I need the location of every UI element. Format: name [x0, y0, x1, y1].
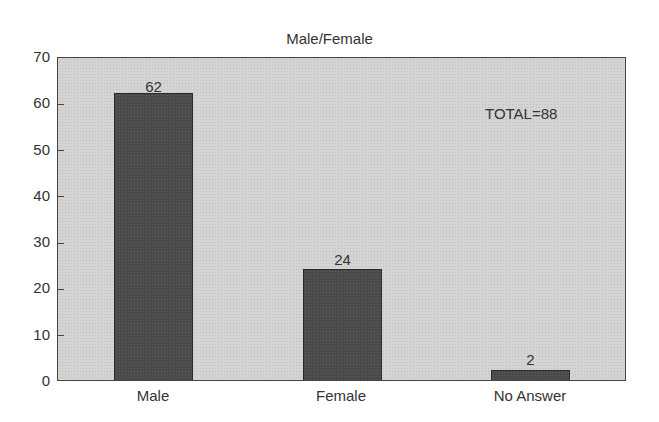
- y-tick-label: 30: [10, 233, 50, 250]
- y-tick-label: 20: [10, 279, 50, 296]
- bar-female: [303, 269, 382, 380]
- bar-value-label-no-answer: 2: [491, 351, 570, 368]
- x-tick-label: No Answer: [450, 387, 610, 404]
- y-tick-label: 70: [10, 48, 50, 65]
- y-tick-mark: [58, 150, 64, 151]
- y-tick-mark: [58, 289, 64, 290]
- plot-area: 62 24 2 TOTAL=88: [57, 57, 626, 381]
- y-tick-label: 40: [10, 187, 50, 204]
- y-tick-mark: [58, 104, 64, 105]
- chart-title: Male/Female: [0, 30, 659, 47]
- total-annotation: TOTAL=88: [485, 105, 557, 122]
- y-tick-label: 10: [10, 326, 50, 343]
- bar-value-label-female: 24: [303, 251, 382, 268]
- y-tick-label: 60: [10, 94, 50, 111]
- x-tick-label: Male: [73, 387, 233, 404]
- bar-male: [114, 93, 193, 380]
- y-tick-mark: [58, 196, 64, 197]
- bar-value-label-male: 62: [114, 78, 193, 95]
- y-tick-label: 0: [10, 372, 50, 389]
- x-tick-label: Female: [261, 387, 421, 404]
- y-tick-mark: [58, 335, 64, 336]
- y-tick-label: 50: [10, 141, 50, 158]
- y-tick-mark: [58, 243, 64, 244]
- bar-no-answer: [491, 370, 570, 380]
